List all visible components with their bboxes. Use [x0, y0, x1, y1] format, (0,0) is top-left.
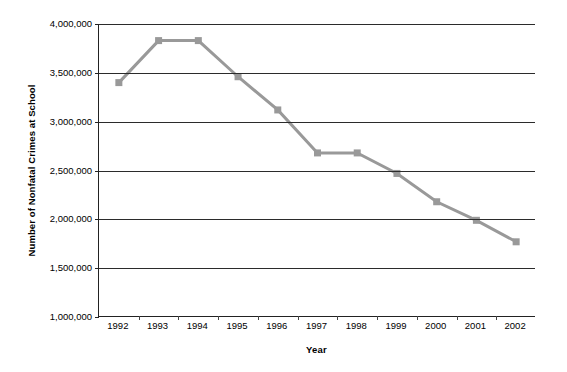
data-point-marker — [513, 238, 520, 245]
y-axis-tick-label: 2,000,000 — [20, 214, 92, 224]
y-axis-tick-label: 1,000,000 — [20, 312, 92, 322]
x-axis-tick-label: 2000 — [414, 320, 458, 332]
x-axis-tick-labels: 1992199319941995199619971998199920002001… — [98, 320, 535, 334]
data-point-marker — [155, 37, 162, 44]
y-axis-tick-label: 3,500,000 — [20, 68, 92, 78]
gridline — [99, 122, 535, 123]
series-markers — [115, 37, 519, 245]
y-axis-tick-label: 3,000,000 — [20, 117, 92, 127]
x-axis-tick-label: 1996 — [255, 320, 299, 332]
series-polyline — [119, 41, 516, 242]
x-axis-tick-label: 1994 — [175, 320, 219, 332]
y-axis-tick-mark — [95, 171, 99, 172]
y-axis-tick-mark — [95, 219, 99, 220]
gridline — [99, 268, 535, 269]
data-point-marker — [195, 37, 202, 44]
data-point-marker — [235, 73, 242, 80]
gridline — [99, 24, 535, 25]
x-axis-tick-label: 2002 — [493, 320, 537, 332]
y-axis-tick-labels: 4,000,0003,500,0003,000,0002,500,0002,00… — [20, 0, 92, 372]
line-chart-figure: Number of Nonfatal Crimes at School 4,00… — [0, 0, 567, 372]
x-axis-tick-label: 1998 — [334, 320, 378, 332]
x-axis-tick-label: 1995 — [215, 320, 259, 332]
gridline — [99, 171, 535, 172]
x-axis-tick-label: 2001 — [453, 320, 497, 332]
y-axis-tick-label: 1,500,000 — [20, 263, 92, 273]
gridline — [99, 219, 535, 220]
y-axis-tick-mark — [95, 268, 99, 269]
data-point-marker — [433, 198, 440, 205]
x-axis-title: Year — [98, 344, 535, 355]
data-point-marker — [354, 149, 361, 156]
y-axis-tick-mark — [95, 73, 99, 74]
y-axis-tick-label: 4,000,000 — [20, 19, 92, 29]
y-axis-tick-mark — [95, 317, 99, 318]
y-axis-tick-mark — [95, 122, 99, 123]
data-point-marker — [274, 106, 281, 113]
x-axis-tick-label: 1999 — [374, 320, 418, 332]
plot-area — [98, 24, 535, 317]
x-axis-tick-label: 1997 — [295, 320, 339, 332]
data-point-marker — [314, 149, 321, 156]
data-point-marker — [115, 79, 122, 86]
gridline — [99, 73, 535, 74]
y-axis-tick-mark — [95, 24, 99, 25]
x-axis-tick-label: 1992 — [96, 320, 140, 332]
y-axis-tick-label: 2,500,000 — [20, 166, 92, 176]
x-axis-tick-label: 1993 — [136, 320, 180, 332]
